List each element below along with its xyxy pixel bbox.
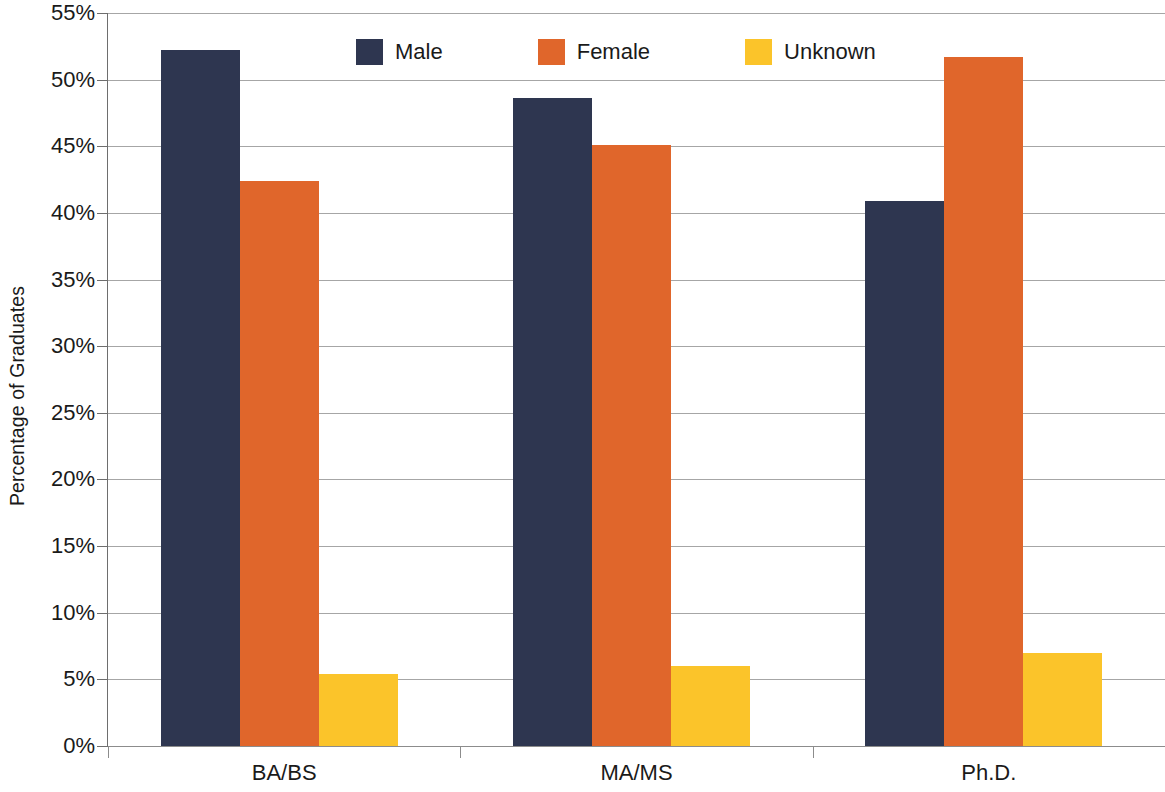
legend: MaleFemaleUnknown bbox=[356, 39, 876, 65]
bar bbox=[865, 201, 944, 746]
x-axis-origin-tick bbox=[108, 747, 109, 758]
y-axis-tick-label: 45% bbox=[9, 133, 95, 159]
x-axis-category-separator bbox=[813, 747, 814, 758]
legend-label: Unknown bbox=[784, 39, 876, 65]
legend-swatch-icon bbox=[745, 39, 772, 65]
y-axis-tick-labels: 0%5%10%15%20%25%30%35%40%45%50%55% bbox=[0, 0, 95, 792]
y-axis-tick-mark bbox=[97, 613, 107, 614]
y-axis-tick-label: 0% bbox=[9, 733, 95, 759]
x-axis-baseline bbox=[107, 746, 1165, 747]
bar bbox=[592, 145, 671, 746]
bar bbox=[1023, 653, 1102, 746]
bar bbox=[240, 181, 319, 746]
legend-swatch-icon bbox=[538, 39, 565, 65]
y-axis-tick-mark bbox=[97, 479, 107, 480]
y-axis-tick-label: 15% bbox=[9, 533, 95, 559]
bar bbox=[319, 674, 398, 746]
y-axis-tick-mark bbox=[97, 80, 107, 81]
x-axis-category-label: Ph.D. bbox=[961, 760, 1016, 786]
y-axis-tick-label: 30% bbox=[9, 333, 95, 359]
y-axis-tick-mark bbox=[97, 679, 107, 680]
bar bbox=[161, 50, 240, 746]
y-axis-tick-mark bbox=[97, 213, 107, 214]
y-axis-tick-mark bbox=[97, 13, 107, 14]
y-axis-tick-mark bbox=[97, 546, 107, 547]
bar-chart: Percentage of Graduates 0%5%10%15%20%25%… bbox=[0, 0, 1165, 792]
legend-label: Male bbox=[395, 39, 443, 65]
y-axis-tick-label: 10% bbox=[9, 600, 95, 626]
legend-item: Female bbox=[538, 39, 650, 65]
bar bbox=[671, 666, 750, 746]
legend-item: Unknown bbox=[745, 39, 876, 65]
x-axis-category-label: MA/MS bbox=[600, 760, 672, 786]
bar bbox=[513, 98, 592, 746]
x-axis-category-separator bbox=[460, 747, 461, 758]
bars-layer bbox=[108, 13, 1165, 746]
legend-swatch-icon bbox=[356, 39, 383, 65]
y-axis-tick-mark bbox=[97, 746, 107, 747]
y-axis-tick-label: 50% bbox=[9, 67, 95, 93]
legend-item: Male bbox=[356, 39, 443, 65]
y-axis-tick-mark bbox=[97, 280, 107, 281]
y-axis-tick-label: 5% bbox=[9, 666, 95, 692]
y-axis-tick-label: 20% bbox=[9, 466, 95, 492]
y-axis-tick-label: 55% bbox=[9, 0, 95, 26]
x-axis-category-label: BA/BS bbox=[252, 760, 317, 786]
bar bbox=[944, 57, 1023, 746]
y-axis-tick-label: 40% bbox=[9, 200, 95, 226]
y-axis-tick-label: 35% bbox=[9, 267, 95, 293]
y-axis-tick-mark bbox=[97, 146, 107, 147]
y-axis-tick-mark bbox=[97, 413, 107, 414]
y-axis-tick-mark bbox=[97, 346, 107, 347]
legend-label: Female bbox=[577, 39, 650, 65]
y-axis-tick-label: 25% bbox=[9, 400, 95, 426]
